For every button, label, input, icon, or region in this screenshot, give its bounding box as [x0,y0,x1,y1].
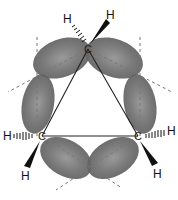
carbon-label: C [84,43,92,55]
hydrogen-label: H [167,124,176,138]
cyclopropane-diagram: C C C H H H H H H [0,0,178,200]
carbon-label: C [38,130,46,142]
lobe-c2-up [17,72,59,137]
hydrogen-label: H [153,167,162,181]
carbon-label: C [134,130,142,142]
hydrogen-label: H [21,169,30,183]
hydrogen-label: H [3,129,12,143]
hydrogen-label: H [63,12,72,26]
hydrogen-label: H [106,8,115,22]
